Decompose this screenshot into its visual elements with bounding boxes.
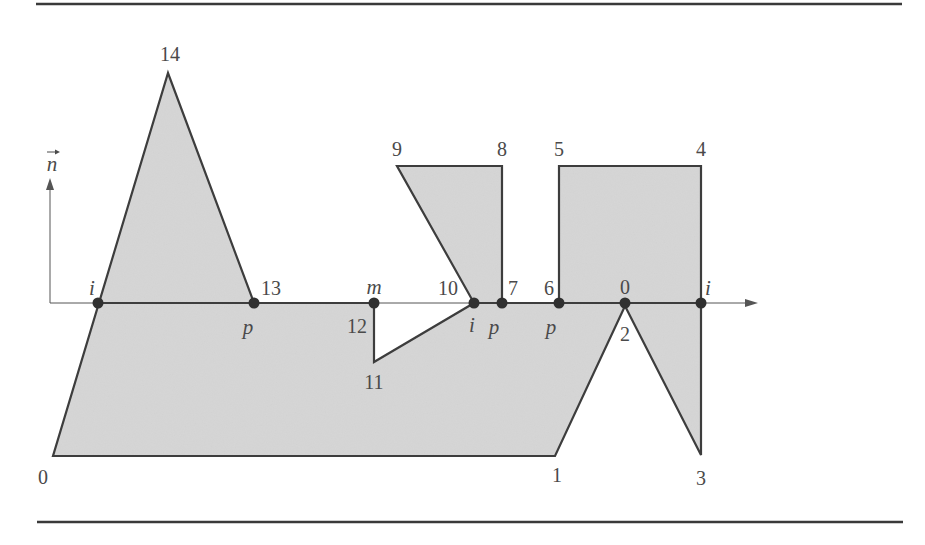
vertex-label: 6 bbox=[544, 277, 554, 299]
point-type-label: i bbox=[469, 313, 475, 337]
point-type-label: 0 bbox=[620, 276, 630, 298]
axis-arrowhead-icon bbox=[745, 299, 758, 307]
point-type-label: p bbox=[487, 315, 500, 339]
point-dot-icon bbox=[369, 298, 380, 309]
vertex-label: 3 bbox=[696, 467, 706, 489]
vertex-label: 10 bbox=[438, 277, 458, 299]
vertex-label: 7 bbox=[508, 277, 518, 299]
vertex-label: 11 bbox=[364, 371, 383, 393]
point-type-label: p bbox=[241, 315, 254, 339]
intersection-point: 0 bbox=[620, 276, 631, 309]
vertex-label: 9 bbox=[392, 138, 402, 160]
diagram-canvas: n ipmipp0i 01234567891011121314 bbox=[0, 0, 925, 545]
point-type-label: i bbox=[705, 276, 711, 300]
vertex-label: 2 bbox=[620, 323, 630, 345]
vertex-label: 4 bbox=[696, 138, 706, 160]
vertex-label: 1 bbox=[552, 464, 562, 486]
point-type-label: m bbox=[366, 275, 381, 299]
point-type-label: p bbox=[544, 315, 557, 339]
intersection-point: m bbox=[366, 275, 381, 309]
point-dot-icon bbox=[497, 298, 508, 309]
vector-arrow-icon bbox=[55, 150, 60, 155]
vertex-label: 5 bbox=[554, 138, 564, 160]
vertex-label: 12 bbox=[347, 315, 367, 337]
normal-vector: n bbox=[46, 150, 60, 304]
normal-arrowhead-icon bbox=[46, 178, 54, 190]
vertex-label: 8 bbox=[497, 138, 507, 160]
vertex-label: 0 bbox=[38, 466, 48, 488]
point-dot-icon bbox=[249, 298, 260, 309]
point-dot-icon bbox=[620, 298, 631, 309]
vertex-label: 14 bbox=[160, 43, 180, 65]
point-type-label: i bbox=[89, 276, 95, 300]
vertex-label: 13 bbox=[261, 277, 281, 299]
point-dot-icon bbox=[554, 298, 565, 309]
polygon-clipping-figure: n ipmipp0i 01234567891011121314 bbox=[0, 0, 925, 545]
normal-vector-label: n bbox=[47, 152, 58, 176]
polygon-shape bbox=[53, 73, 701, 456]
point-dot-icon bbox=[469, 298, 480, 309]
